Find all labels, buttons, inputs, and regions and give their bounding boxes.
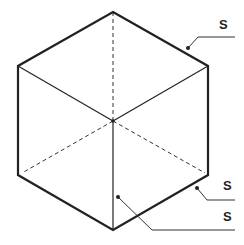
label-top-edge: S <box>219 17 228 32</box>
cube-diagram: S S S <box>0 0 244 245</box>
label-front-face: S <box>223 209 232 224</box>
leader-lines <box>118 37 235 230</box>
label-lower-right-edge: S <box>223 178 232 193</box>
leader-dots <box>116 46 199 199</box>
cube-svg: S S S <box>0 0 244 245</box>
